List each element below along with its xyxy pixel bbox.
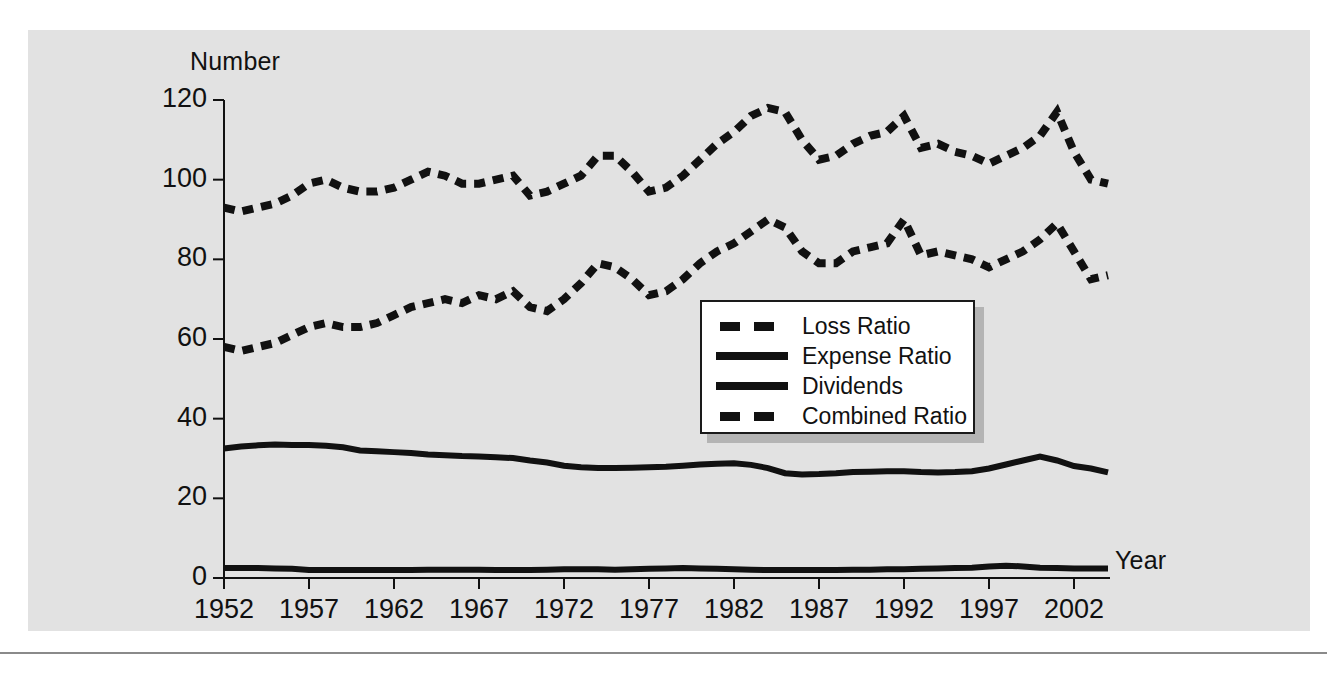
y-tick-label: 100: [117, 163, 207, 194]
legend-swatch-expense-ratio: [714, 349, 790, 363]
y-tick-label: 40: [117, 402, 207, 433]
legend-label: Loss Ratio: [802, 315, 911, 338]
y-tick-label: 0: [117, 561, 207, 592]
series-expense-ratio: [224, 445, 1108, 475]
legend-swatch-combined-ratio: [714, 409, 790, 423]
chart-legend: Loss Ratio Expense Ratio Dividends Combi…: [700, 300, 975, 434]
y-tick-label: 60: [117, 322, 207, 353]
series-combined-ratio: [224, 108, 1108, 212]
figure-page: Number Year 020406080100120 195219571962…: [0, 0, 1327, 681]
y-tick-label: 80: [117, 242, 207, 273]
x-axis-title: Year: [1115, 546, 1166, 575]
y-tick-label: 120: [117, 83, 207, 114]
legend-swatch-loss-ratio: [714, 319, 790, 333]
legend-item[interactable]: Combined Ratio: [702, 401, 973, 431]
series-dividends: [224, 566, 1108, 570]
legend-item[interactable]: Expense Ratio: [702, 341, 973, 371]
x-tick-label: 2002: [1019, 594, 1129, 625]
legend-label: Dividends: [802, 375, 903, 398]
legend-item[interactable]: Dividends: [702, 371, 973, 401]
legend-label: Expense Ratio: [802, 345, 952, 368]
legend-item[interactable]: Loss Ratio: [702, 311, 973, 341]
y-tick-label: 20: [117, 481, 207, 512]
legend-swatch-dividends: [714, 379, 790, 393]
legend-label: Combined Ratio: [802, 405, 967, 428]
y-axis-title: Number: [190, 47, 280, 76]
